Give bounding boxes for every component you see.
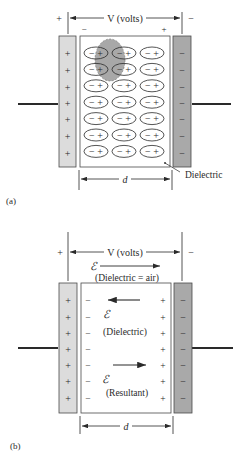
dipole-charges: − +: [145, 64, 159, 75]
svg-text:+: +: [160, 296, 165, 306]
right-terminal-sign-a: −: [188, 13, 194, 24]
field-symbol-air: ℰ: [90, 260, 98, 272]
svg-text:−: −: [85, 345, 90, 355]
svg-text:+: +: [65, 82, 71, 93]
svg-text:−: −: [180, 376, 186, 387]
svg-text:−: −: [85, 313, 90, 323]
voltage-label-a: V (volts): [107, 13, 143, 25]
svg-text:−: −: [179, 148, 185, 159]
svg-text:−: −: [180, 360, 186, 371]
dipole-charges: − +: [89, 113, 103, 124]
dipole-charges: − +: [89, 146, 103, 157]
svg-text:+: +: [160, 345, 165, 355]
figure-label-a: (a): [6, 196, 16, 206]
svg-text:+: +: [65, 114, 71, 125]
svg-text:+: +: [65, 376, 71, 387]
voltage-label-b: V (volts): [107, 247, 143, 259]
dipole-charges: − +: [117, 130, 131, 141]
field-dielectric-label: (Dielectric): [103, 327, 147, 338]
dipole-charges: − +: [89, 48, 103, 59]
svg-text:−: −: [179, 82, 185, 93]
dielectric-callout-label: Dielectric: [185, 170, 222, 180]
svg-text:+: +: [65, 328, 71, 339]
svg-text:−: −: [179, 131, 185, 142]
dipole-charges: − +: [145, 97, 159, 108]
dipole-charges: − +: [117, 146, 131, 157]
dipole-charges: − +: [145, 130, 159, 141]
distance-dimension-a: d: [79, 170, 172, 190]
dipole-charges: − +: [117, 97, 131, 108]
dipole-charges: − +: [117, 113, 131, 124]
field-resultant-label: (Resultant): [106, 388, 148, 399]
svg-text:+: +: [160, 377, 165, 387]
dipole-charges: − +: [89, 64, 103, 75]
dipole-charges: − +: [117, 64, 131, 75]
svg-text:−: −: [85, 377, 90, 387]
svg-text:+: +: [65, 98, 71, 109]
capacitor-dielectric-diagram: V (volts) + − − + + + + + + + + − − − − …: [0, 0, 236, 455]
svg-text:+: +: [65, 360, 71, 371]
distance-label-a: d: [123, 174, 129, 185]
figure-a: V (volts) + − − + + + + + + + + − − − − …: [6, 12, 231, 206]
svg-text:−: −: [180, 393, 186, 404]
voltage-dimension-a: V (volts) + − − +: [56, 12, 194, 34]
figure-label-b: (b): [10, 441, 21, 451]
svg-text:+: +: [160, 361, 165, 371]
dipole-charges: − +: [145, 80, 159, 91]
svg-text:−: −: [179, 65, 185, 76]
dielectric-left-sign-a: −: [81, 24, 86, 34]
dielectric-right-sign-a: +: [161, 24, 166, 34]
svg-text:−: −: [180, 295, 186, 306]
svg-text:−: −: [85, 394, 90, 404]
svg-text:+: +: [65, 131, 71, 142]
left-terminal-sign-b: +: [57, 247, 63, 258]
distance-label-b: d: [124, 421, 130, 432]
svg-text:+: +: [65, 295, 71, 306]
field-symbol-dielectric: ℰ: [103, 308, 111, 320]
svg-text:−: −: [179, 114, 185, 125]
svg-text:+: +: [65, 344, 71, 355]
svg-text:−: −: [180, 344, 186, 355]
figure-b: V (volts) + − ℰ (Dielectric = air) + + +…: [10, 232, 233, 451]
svg-text:+: +: [65, 393, 71, 404]
svg-text:+: +: [160, 313, 165, 323]
dipole-charges: − +: [89, 80, 103, 91]
dipole-charges: − +: [145, 146, 159, 157]
svg-text:−: −: [85, 361, 90, 371]
svg-text:+: +: [160, 394, 165, 404]
dipole-charges: − +: [117, 80, 131, 91]
left-terminal-sign-a: +: [56, 13, 62, 24]
right-terminal-sign-b: −: [188, 247, 194, 258]
dipole-charges: − +: [145, 48, 159, 59]
svg-text:+: +: [65, 148, 71, 159]
svg-text:+: +: [65, 48, 71, 59]
dipole-charges: − +: [89, 130, 103, 141]
svg-text:−: −: [179, 48, 185, 59]
svg-text:−: −: [85, 296, 90, 306]
field-air-label: (Dielectric = air): [95, 273, 159, 284]
dipole-grid-a: − +− +− +− +− +− +− +− +− +− +− +− +− +−…: [84, 47, 164, 157]
svg-text:−: −: [180, 312, 186, 323]
field-symbol-resultant: ℰ: [102, 373, 110, 385]
dipole-charges: − +: [89, 97, 103, 108]
distance-dimension-b: d: [80, 416, 173, 434]
svg-text:+: +: [65, 312, 71, 323]
dipole-charges: − +: [117, 48, 131, 59]
svg-text:−: −: [180, 328, 186, 339]
svg-text:−: −: [179, 98, 185, 109]
svg-text:+: +: [160, 329, 165, 339]
svg-text:−: −: [85, 329, 90, 339]
svg-text:+: +: [65, 65, 71, 76]
dipole-charges: − +: [145, 113, 159, 124]
